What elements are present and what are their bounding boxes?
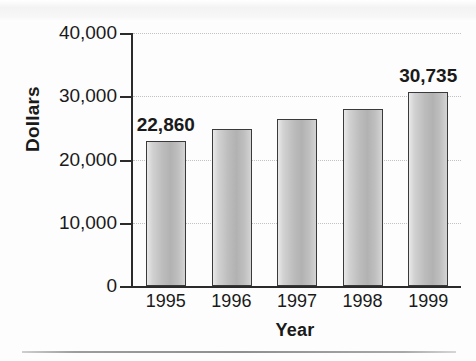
- y-tick-label: 10,000: [59, 212, 117, 234]
- x-axis-line: [131, 286, 461, 288]
- x-tick-label-1997: 1997: [264, 291, 330, 312]
- y-tick-mark: [120, 286, 133, 288]
- y-tick-mark: [120, 160, 133, 162]
- y-tick-label: 20,000: [59, 149, 117, 171]
- bar-slot: 30,735: [395, 33, 461, 286]
- bar-1996[interactable]: [212, 129, 252, 286]
- bar-series: 22,86030,735: [133, 33, 461, 286]
- bar-value-label-1995: 22,860: [137, 114, 195, 136]
- plot-area: 010,00020,00030,00040,000 22,86030,735 1…: [131, 33, 461, 288]
- figure-bottom-rule: [22, 351, 456, 353]
- x-axis-title: Year: [125, 320, 465, 341]
- x-tick-label-1999: 1999: [395, 291, 461, 312]
- x-tick-label-1996: 1996: [199, 291, 265, 312]
- y-axis-title: Dollars: [22, 64, 44, 174]
- bar-1999[interactable]: [408, 92, 448, 286]
- y-tick-label: 0: [106, 275, 117, 297]
- bar-1995[interactable]: [146, 141, 186, 286]
- y-tick-label: 30,000: [59, 85, 117, 107]
- x-tick-label-1995: 1995: [133, 291, 199, 312]
- x-tick-label-1998: 1998: [330, 291, 396, 312]
- bar-slot: [199, 33, 265, 286]
- bar-slot: [264, 33, 330, 286]
- bar-1997[interactable]: [277, 119, 317, 286]
- y-tick-label: 40,000: [59, 22, 117, 44]
- bar-1998[interactable]: [343, 109, 383, 286]
- y-tick-mark: [120, 223, 133, 225]
- bar-slot: [330, 33, 396, 286]
- bar-chart-figure: Dollars 010,00020,00030,00040,000 22,860…: [0, 0, 476, 361]
- y-tick-mark: [120, 33, 133, 35]
- bar-slot: 22,860: [133, 33, 199, 286]
- bar-value-label-1999: 30,735: [399, 65, 457, 87]
- y-tick-mark: [120, 96, 133, 98]
